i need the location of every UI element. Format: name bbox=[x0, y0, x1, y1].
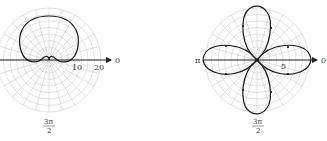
left-tick-20: 20 bbox=[94, 63, 104, 72]
left-angle-3pi2-den: 2 bbox=[47, 127, 51, 135]
right-angle-pi: π bbox=[195, 56, 200, 65]
left-angle-3pi2-num: 3π bbox=[44, 118, 53, 126]
right-angle-3pi2-den: 2 bbox=[256, 127, 260, 135]
right-angle-3pi2-num: 3π bbox=[253, 118, 262, 126]
rose-origin-dot bbox=[255, 58, 259, 62]
left-polar-plot: 10 20 0 3π 2 bbox=[0, 8, 120, 135]
left-angle-0: 0 bbox=[115, 56, 120, 65]
right-tick-5: 5 bbox=[281, 62, 286, 71]
right-polar-plot: 5 π 0 3π 2 bbox=[195, 6, 326, 135]
polar-plots-figure: 10 20 0 3π 2 bbox=[0, 0, 327, 141]
right-angle-0: 0 bbox=[321, 56, 326, 65]
left-tick-10: 10 bbox=[72, 63, 82, 72]
